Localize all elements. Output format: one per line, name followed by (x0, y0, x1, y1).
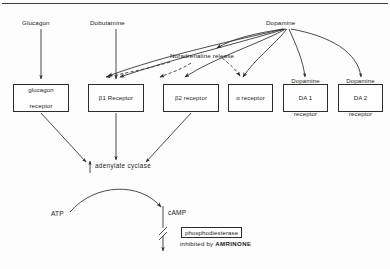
receptor-label-da2-line-2: DA 2 (344, 94, 377, 102)
receptor-box-dopamine-da1: Dopamine DA 1 receptor (283, 84, 328, 112)
receptor-label-da2-line-1: Dopamine (344, 77, 377, 85)
receptor-box-beta1: β1 Receptor (88, 84, 144, 112)
phosphodiesterase-label: phosphodiesterase (185, 229, 238, 236)
receptor-box-glucagon: glucagon receptor (13, 84, 69, 112)
adenylate-cyclase-label: adenylate cyclase (95, 162, 151, 169)
agonist-label-dopamine: Dopamine (266, 19, 295, 27)
receptor-label-beta2: β2 receptor (173, 94, 209, 102)
inhibition-note: inhibited by AMRINONE (180, 240, 252, 247)
phosphodiesterase-box: phosphodiesterase (181, 227, 242, 238)
receptor-label-da1-line-2: DA 1 (289, 94, 322, 102)
pharmacology-pathway-diagram: Glucagon Dobutamine Dopamine Noradrenali… (0, 0, 390, 269)
receptor-label-da1-line-3: receptor (289, 110, 322, 118)
arrow-dopamine-to-da1 (289, 29, 305, 77)
receptor-label-line-2: receptor (26, 102, 56, 110)
receptor-label-beta1: β1 Receptor (97, 94, 135, 102)
agonist-label-dobutamine: Dobutamine (90, 19, 125, 27)
receptor-box-alpha: α receptor (228, 84, 273, 112)
substrate-label-atp: ATP (51, 210, 64, 218)
arrow-dopamine-to-da2 (291, 29, 361, 77)
noradrenaline-release-label: Noradrenaline release (170, 52, 234, 60)
receptor-box-beta2: β2 receptor (163, 84, 219, 112)
arrow-atp-to-camp (70, 189, 161, 212)
receptor-label-da1-line-1: Dopamine (289, 77, 322, 85)
receptor-label-line-1: glucagon (26, 86, 56, 94)
inhibition-note-prefix: inhibited by (180, 240, 213, 247)
receptor-label-alpha: α receptor (234, 94, 267, 102)
receptor-label-da2-line-3: receptor (344, 110, 377, 118)
arrow-beta2-to-ac (146, 113, 191, 162)
arrow-noradrenaline-to-beta2 (160, 63, 191, 77)
substrate-label-camp: cAMP (168, 209, 186, 217)
agonist-label-glucagon: Glucagon (22, 19, 50, 27)
inhibition-note-drug: AMRINONE (215, 240, 251, 247)
arrow-dopamine-to-alpha (243, 29, 287, 77)
receptor-box-dopamine-da2: Dopamine DA 2 receptor (338, 84, 383, 112)
arrow-glucagon-receptor-to-ac (41, 113, 86, 162)
arrow-noradrenaline-to-alpha (222, 58, 240, 76)
